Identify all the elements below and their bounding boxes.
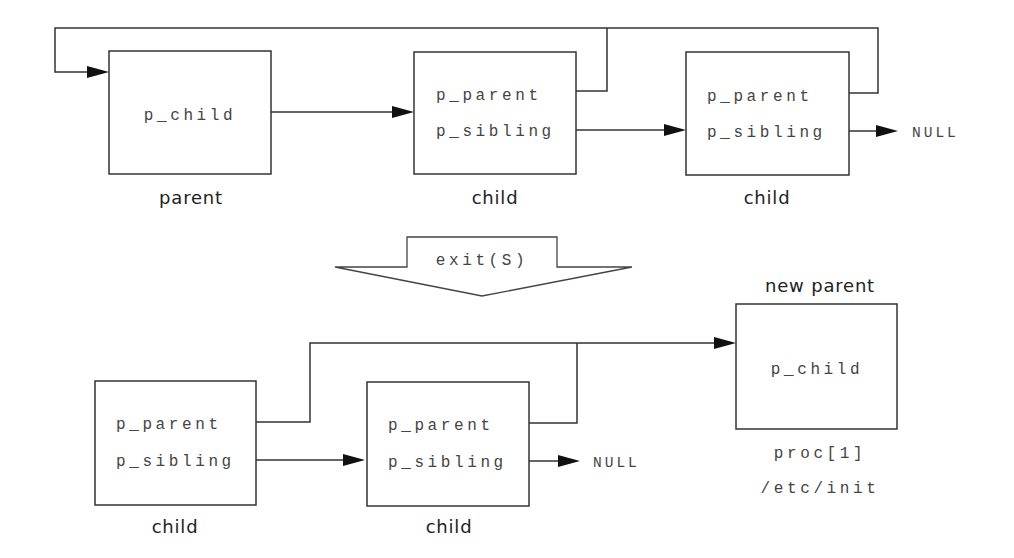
after-child2-field-p-parent: p_parent: [388, 417, 494, 435]
new-parent-init-label: /etc/init: [761, 480, 880, 498]
new-parent-node: new parent p_child proc[1] /etc/init: [736, 275, 897, 498]
child2-box: [686, 52, 849, 175]
child1-label: child: [472, 187, 519, 208]
parent-field-p-child: p_child: [144, 107, 236, 125]
child2-label: child: [744, 187, 791, 208]
child2-field-p-sibling: p_sibling: [707, 124, 826, 142]
arrowhead-icon: [876, 125, 898, 137]
after-child2-node: p_parent p_sibling child: [367, 382, 529, 537]
after-child1-field-p-sibling: p_sibling: [116, 453, 235, 471]
child2-field-p-parent: p_parent: [707, 88, 813, 106]
arrowhead-icon: [558, 455, 580, 467]
new-parent-proc-label: proc[1]: [774, 445, 866, 463]
new-parent-field-p-child: p_child: [771, 361, 863, 379]
exit-label: exit(S): [436, 252, 528, 270]
arrowhead-icon: [343, 454, 365, 466]
child1-box: [414, 52, 576, 174]
after-child2-box: [367, 382, 529, 506]
arrowhead-icon: [714, 337, 736, 349]
child2-node: p_parent p_sibling child: [686, 52, 849, 208]
process-tree-diagram: p_child parent p_parent p_sibling child …: [0, 0, 1014, 558]
arrowhead-icon: [392, 106, 414, 118]
arrow-after-child2-sibling-null: NULL: [529, 455, 640, 471]
child1-field-p-parent: p_parent: [436, 87, 542, 105]
parent-node: p_child parent: [109, 51, 271, 208]
new-parent-title: new parent: [765, 275, 875, 296]
parent-label: parent: [159, 187, 223, 208]
after-child2-label: child: [426, 516, 473, 537]
child1-node: p_parent p_sibling child: [414, 52, 576, 208]
after-child1-label: child: [152, 516, 199, 537]
arrow-child1-sibling: [576, 124, 686, 136]
arrow-parent-to-child1: [271, 106, 414, 118]
arrowhead-icon: [664, 124, 686, 136]
after-child2-field-p-sibling: p_sibling: [388, 454, 507, 472]
arrow-after-child1-sibling: [256, 454, 365, 466]
after-child1-node: p_parent p_sibling child: [95, 381, 256, 537]
after-child1-box: [95, 381, 256, 505]
child1-field-p-sibling: p_sibling: [436, 123, 555, 141]
exit-transition-arrow: exit(S): [335, 237, 632, 296]
null-label: NULL: [912, 125, 959, 141]
after-null-label: NULL: [593, 455, 640, 471]
after-child1-field-p-parent: p_parent: [116, 416, 222, 434]
arrowhead-icon: [87, 66, 109, 78]
arrow-child2-sibling-null: NULL: [849, 125, 959, 141]
